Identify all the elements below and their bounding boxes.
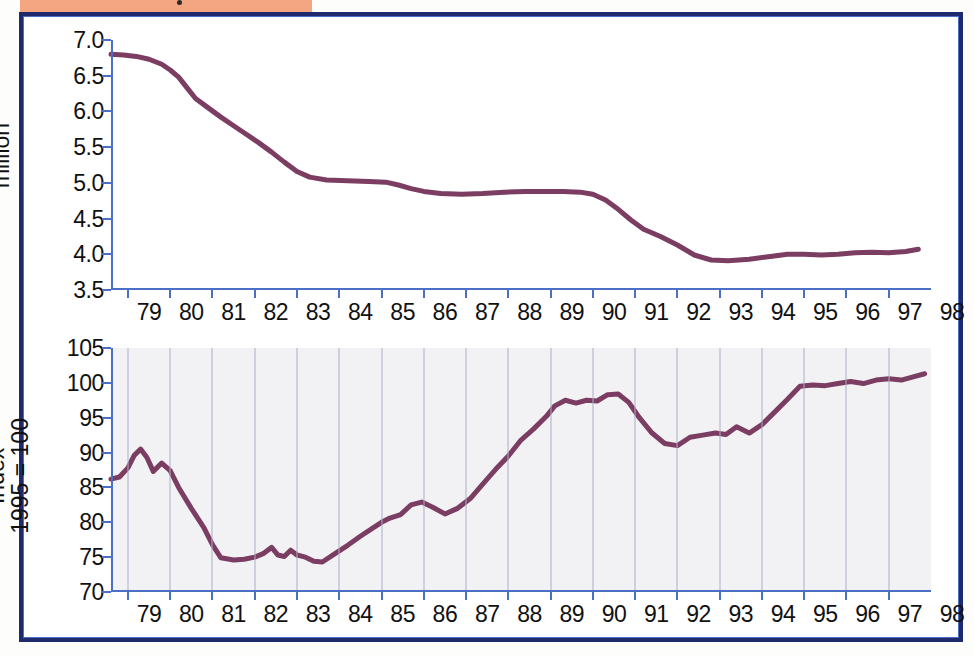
bottom-chart-x-tick-mark	[634, 592, 636, 600]
bottom-chart-x-tick-label: 82	[264, 601, 289, 628]
bottom-chart-gridline	[254, 348, 255, 592]
bottom-chart-y-tick-mark	[102, 521, 111, 523]
top-chart-x-tick-mark	[127, 290, 129, 298]
bottom-chart-y-tick-mark	[102, 347, 111, 349]
bottom-chart-x-tick-mark	[423, 592, 425, 600]
bottom-chart-gridline	[508, 348, 509, 592]
bottom-chart-x-tick-mark	[507, 592, 509, 600]
bottom-chart-gridline	[550, 348, 551, 592]
bottom-chart-y-tick-mark	[102, 486, 111, 488]
top-chart-line-svg	[111, 40, 931, 290]
bottom-chart-gridline	[423, 348, 424, 592]
bottom-chart-gridline	[846, 348, 847, 592]
top-chart-x-tick-mark	[169, 290, 171, 298]
bottom-chart-plot-area: 1051009590858075707980818283848586878889…	[111, 348, 931, 592]
bottom-chart-x-tick-mark	[381, 592, 383, 600]
bottom-chart-panel: Index1995 = 100 …even as output has rise…	[23, 328, 959, 640]
top-chart-x-tick-mark	[211, 290, 213, 298]
bottom-chart-x-tick-mark	[888, 592, 890, 600]
top-chart-x-tick-label: 96	[855, 299, 880, 326]
bottom-chart-x-tick-mark	[338, 592, 340, 600]
bottom-chart-x-tick-mark	[169, 592, 171, 600]
bottom-chart-x-tick-label: 80	[179, 601, 204, 628]
top-chart-x-tick-mark	[761, 290, 763, 298]
bottom-chart-x-tick-mark	[845, 592, 847, 600]
top-chart-x-tick-mark	[719, 290, 721, 298]
top-chart-panel: million Manufacturing jobs have shrunk… …	[23, 22, 959, 322]
bottom-chart-gridline	[466, 348, 467, 592]
bottom-chart-x-tick-label: 89	[559, 601, 584, 628]
top-chart-y-tick-mark	[102, 146, 111, 148]
top-chart-x-tick-label: 90	[602, 299, 627, 326]
bottom-chart-x-tick-mark	[550, 592, 552, 600]
bottom-chart-x-tick-mark	[211, 592, 213, 600]
bottom-chart-x-tick-label: 93	[728, 601, 753, 628]
bottom-chart-x-tick-mark	[803, 592, 805, 600]
bottom-chart-y-tick-mark	[102, 591, 111, 593]
bottom-chart-x-tick-label: 84	[348, 601, 373, 628]
top-chart-x-tick-label: 82	[264, 299, 289, 326]
bottom-chart-x-tick-mark	[761, 592, 763, 600]
top-chart-y-tick-mark	[102, 218, 111, 220]
bottom-chart-data-line	[111, 374, 925, 562]
top-chart-x-tick-mark	[507, 290, 509, 298]
bottom-chart-x-tick-label: 85	[390, 601, 415, 628]
top-chart-plot-area: 7.06.56.05.55.04.54.03.57980818283848586…	[111, 40, 931, 290]
top-chart-x-tick-mark	[423, 290, 425, 298]
bottom-chart-x-tick-label: 86	[433, 601, 458, 628]
top-chart-x-tick-label: 81	[221, 299, 246, 326]
bottom-chart-line-svg	[111, 348, 931, 592]
top-chart-x-tick-label: 94	[771, 299, 796, 326]
bottom-chart-y-axis-title-line: Index1995 = 100	[0, 391, 33, 561]
top-chart-x-tick-label: 83	[306, 299, 331, 326]
top-chart-y-tick-mark	[102, 289, 111, 291]
bottom-chart-gridline	[677, 348, 678, 592]
bottom-chart-gridline	[635, 348, 636, 592]
top-chart-x-tick-label: 85	[390, 299, 415, 326]
bottom-chart-x-tick-mark	[592, 592, 594, 600]
top-chart-y-axis-title: million	[0, 96, 15, 216]
bottom-chart-x-tick-mark	[676, 592, 678, 600]
banner-dot-icon	[177, 0, 182, 5]
bottom-chart-gridline	[127, 348, 128, 592]
top-chart-x-tick-mark	[888, 290, 890, 298]
bottom-chart-gridline	[339, 348, 340, 592]
bottom-chart-gridline	[381, 348, 382, 592]
bottom-chart-x-tick-label: 88	[517, 601, 542, 628]
bottom-chart-x-axis	[111, 590, 931, 592]
bottom-chart-x-tick-mark	[719, 592, 721, 600]
top-chart-x-tick-mark	[676, 290, 678, 298]
chart-page: million Manufacturing jobs have shrunk… …	[0, 0, 974, 656]
top-chart-x-tick-label: 89	[559, 299, 584, 326]
bottom-chart-x-tick-label: 79	[137, 601, 162, 628]
bottom-chart-x-tick-label: 95	[813, 601, 838, 628]
top-chart-x-tick-mark	[254, 290, 256, 298]
bottom-chart-y-tick-mark	[102, 382, 111, 384]
bottom-chart-gridline	[592, 348, 593, 592]
bottom-chart-x-tick-label: 92	[686, 601, 711, 628]
top-chart-x-tick-label: 79	[137, 299, 162, 326]
bottom-chart-x-tick-label: 96	[855, 601, 880, 628]
bottom-chart-x-tick-label: 91	[644, 601, 669, 628]
top-chart-x-axis	[111, 288, 931, 290]
bottom-chart-x-tick-label: 83	[306, 601, 331, 628]
bottom-chart-x-tick-mark	[254, 592, 256, 600]
top-chart-y-tick-mark	[102, 75, 111, 77]
bottom-chart-gridline	[719, 348, 720, 592]
top-chart-x-tick-label: 80	[179, 299, 204, 326]
bottom-chart-y-axis	[111, 348, 113, 592]
bottom-chart-y-tick-mark	[102, 417, 111, 419]
top-chart-x-tick-label: 88	[517, 299, 542, 326]
bottom-chart-gridline	[804, 348, 805, 592]
top-chart-x-tick-label: 93	[728, 299, 753, 326]
top-chart-x-tick-label: 86	[433, 299, 458, 326]
top-chart-y-tick-mark	[102, 182, 111, 184]
top-chart-x-tick-mark	[550, 290, 552, 298]
bottom-chart-y-tick-mark	[102, 556, 111, 558]
top-chart-x-tick-label: 98	[940, 299, 965, 326]
top-chart-x-tick-mark	[592, 290, 594, 298]
top-chart-x-tick-mark	[296, 290, 298, 298]
top-chart-x-tick-mark	[465, 290, 467, 298]
chart-frame: million Manufacturing jobs have shrunk… …	[19, 12, 963, 642]
bottom-chart-x-tick-label: 87	[475, 601, 500, 628]
